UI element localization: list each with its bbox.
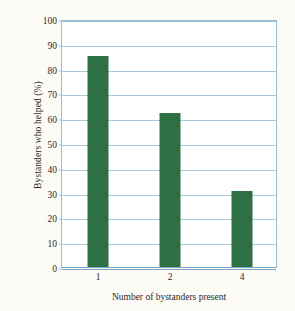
x-tick-label: 1	[96, 272, 101, 282]
bar	[232, 191, 253, 267]
x-axis-title: Number of bystanders present	[61, 292, 277, 302]
y-tick-label: 90	[48, 41, 58, 51]
y-tick-label: 0	[52, 264, 57, 274]
y-tick-mark	[59, 21, 62, 22]
y-tick-mark	[59, 45, 62, 46]
x-tick-mark	[170, 267, 171, 270]
y-tick-label: 10	[48, 239, 58, 249]
y-tick-mark	[59, 169, 62, 170]
y-tick-mark	[59, 194, 62, 195]
x-tick-label: 4	[240, 272, 245, 282]
gridline	[62, 269, 276, 270]
y-tick-mark	[59, 120, 62, 121]
y-tick-mark	[59, 219, 62, 220]
y-tick-label: 20	[48, 214, 58, 224]
x-tick-mark	[242, 267, 243, 270]
bar-chart-figure: Bystanders who helped (%) 01020304050607…	[0, 0, 295, 311]
y-tick-label: 50	[48, 140, 58, 150]
y-tick-label: 100	[43, 16, 57, 26]
bar	[88, 56, 109, 267]
y-tick-label: 30	[48, 190, 58, 200]
y-tick-label: 40	[48, 165, 58, 175]
gridline	[62, 21, 276, 22]
y-axis-title: Bystanders who helped (%)	[33, 35, 43, 235]
x-tick-label: 2	[168, 272, 173, 282]
y-tick-label: 80	[48, 66, 58, 76]
y-tick-mark	[59, 145, 62, 146]
x-tick-mark	[98, 267, 99, 270]
y-tick-mark	[59, 70, 62, 71]
y-tick-mark	[59, 269, 62, 270]
y-tick-mark	[59, 244, 62, 245]
plot-area: 0102030405060708090100 124	[61, 20, 277, 268]
bar	[160, 113, 181, 267]
y-tick-label: 70	[48, 90, 58, 100]
y-tick-label: 60	[48, 115, 58, 125]
gridline	[62, 46, 276, 47]
y-tick-mark	[59, 95, 62, 96]
